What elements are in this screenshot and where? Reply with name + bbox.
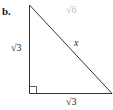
faded-answer-label: √6 — [66, 5, 77, 15]
base-leg-label: √3 — [66, 97, 77, 107]
triangle-diagram — [0, 0, 113, 110]
right-triangle — [30, 5, 113, 94]
right-angle-marker — [30, 87, 37, 94]
hypotenuse-label: x — [74, 38, 78, 48]
part-label: b. — [2, 6, 11, 17]
left-leg-label: √3 — [11, 43, 22, 53]
